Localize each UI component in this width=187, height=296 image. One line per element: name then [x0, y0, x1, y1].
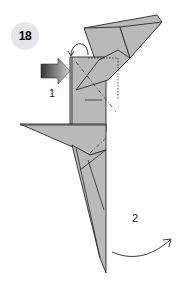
push-arrow-icon — [41, 58, 70, 84]
step-label-2: 2 — [132, 212, 138, 224]
wing — [20, 124, 106, 155]
origami-diagram — [0, 0, 187, 296]
curved-arrow-icon — [71, 44, 88, 55]
step-label-1: 1 — [49, 87, 55, 99]
curved-arrow-icon — [112, 240, 170, 256]
